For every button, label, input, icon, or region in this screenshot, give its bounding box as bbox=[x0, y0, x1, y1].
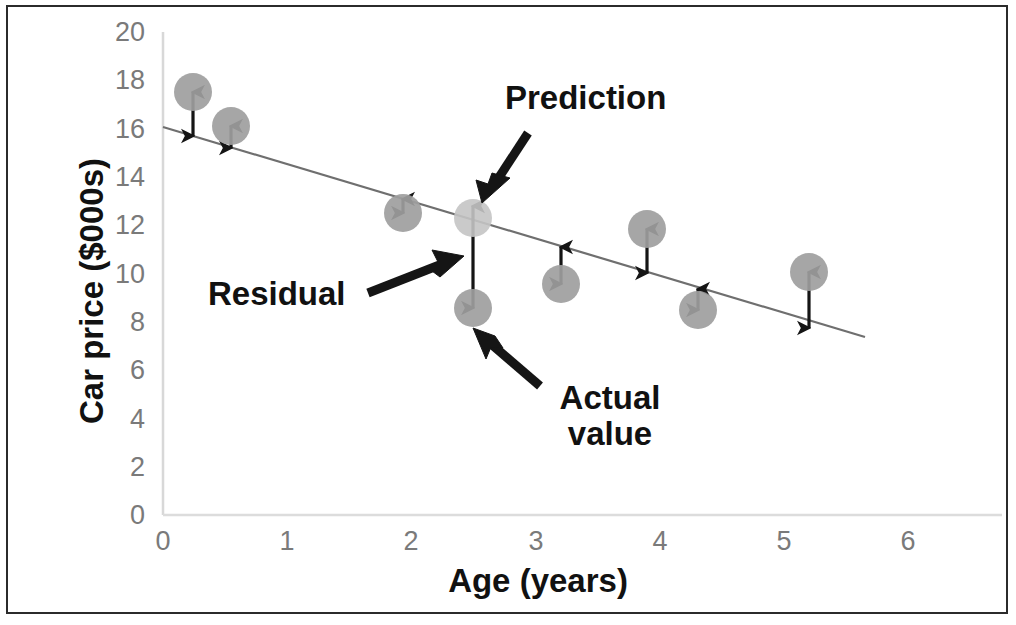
x-tick-5: 5 bbox=[776, 528, 791, 555]
data-point bbox=[542, 265, 580, 303]
data-point bbox=[628, 210, 666, 248]
chart-figure: 20 18 16 14 12 10 8 6 4 2 0 0 1 2 3 4 5 … bbox=[0, 0, 1016, 625]
data-point bbox=[174, 73, 212, 111]
x-tick-0: 0 bbox=[155, 528, 170, 555]
annotation-actual-value-line1: Actual bbox=[550, 380, 670, 416]
prediction-arrow-head bbox=[476, 173, 510, 203]
annotation-actual-value-line2: value bbox=[550, 416, 670, 452]
y-tick-0: 0 bbox=[95, 502, 145, 529]
annotation-prediction: Prediction bbox=[505, 80, 666, 116]
annotation-residual: Residual bbox=[208, 276, 346, 312]
x-tick-4: 4 bbox=[652, 528, 667, 555]
data-point bbox=[679, 291, 717, 329]
x-axis-title: Age (years) bbox=[163, 562, 913, 600]
data-point bbox=[212, 107, 250, 145]
y-tick-20: 20 bbox=[95, 19, 145, 46]
data-point-actual-value bbox=[454, 289, 492, 327]
data-point bbox=[384, 194, 422, 232]
data-point bbox=[790, 253, 828, 291]
x-tick-1: 1 bbox=[279, 528, 294, 555]
x-tick-3: 3 bbox=[528, 528, 543, 555]
annotation-arrows bbox=[368, 133, 540, 386]
x-tick-2: 2 bbox=[403, 528, 418, 555]
annotation-actual-value: Actual value bbox=[550, 380, 670, 451]
data-point-prediction bbox=[454, 199, 492, 237]
actual-value-arrow-shaft bbox=[490, 343, 540, 386]
x-tick-6: 6 bbox=[900, 528, 915, 555]
y-axis-title: Car price ($000s) bbox=[73, 81, 111, 501]
prediction-arrow-shaft bbox=[496, 133, 528, 182]
